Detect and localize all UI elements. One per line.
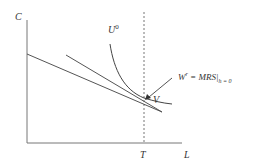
indifference-label: U0 <box>108 23 119 35</box>
indifference-curve <box>110 44 172 104</box>
reservation-wage-line <box>66 55 162 112</box>
x-axis-label: L <box>183 149 190 160</box>
tick-label-T: T <box>140 149 147 160</box>
y-axis-label: C <box>15 11 22 22</box>
reservation-wage-annotation: Wr = MRS|h = 0 <box>178 71 231 84</box>
labor-leisure-diagram: C L T U0 V Wr = MRS|h = 0 <box>0 0 256 167</box>
budget-line <box>27 54 162 112</box>
point-V-label: V <box>153 94 161 105</box>
